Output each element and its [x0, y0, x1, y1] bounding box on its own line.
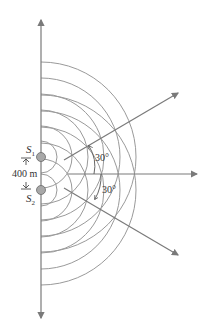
- wavefronts-s1: [41, 62, 136, 252]
- separation-label: 400 m: [12, 168, 38, 179]
- upper-30deg-line: [64, 93, 178, 160]
- lower-30deg-line: [64, 188, 178, 255]
- upper-angle-label: 30°: [95, 152, 109, 163]
- source-s1-label: S1: [26, 143, 36, 158]
- lower-angle-label: 30°: [102, 184, 116, 195]
- source-s2: [37, 186, 46, 195]
- source-s1: [37, 153, 46, 162]
- wavefronts-s2: [41, 95, 136, 285]
- source-s2-label: S2: [26, 192, 36, 207]
- interference-diagram: S1 S2 400 m 30° 30°: [0, 0, 208, 336]
